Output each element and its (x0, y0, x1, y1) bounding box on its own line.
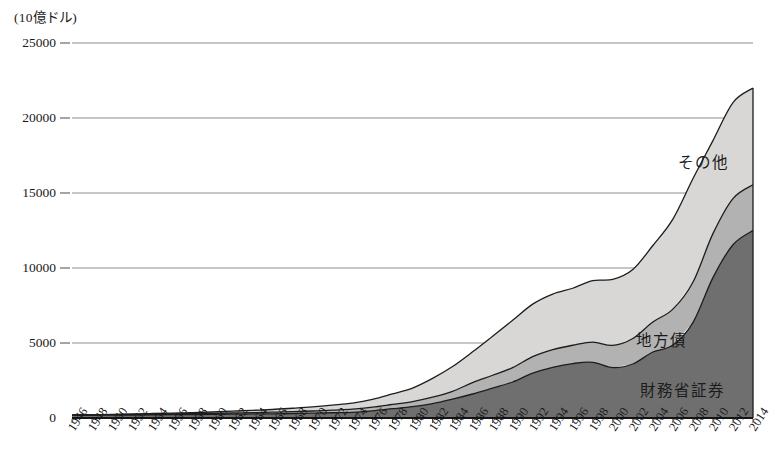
series-label-municipal: 地方債 (636, 328, 687, 350)
stacked-area-chart: (10億ドル) 0500010000150002000025000 194619… (0, 0, 775, 476)
series-label-treasury: 財務省証券 (640, 378, 725, 400)
series-label-other: その他 (678, 150, 729, 172)
plot-area (0, 0, 775, 476)
